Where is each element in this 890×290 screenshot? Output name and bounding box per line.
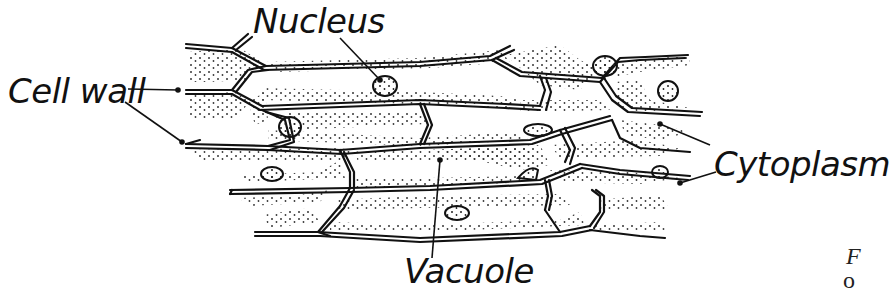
nucleus-9	[445, 206, 469, 220]
label-nucleus: Nucleus	[253, 4, 385, 38]
caption-fragment-line1: F	[846, 244, 861, 268]
nucleus-2	[279, 117, 301, 137]
label-vacuole: Vacuole	[404, 254, 534, 288]
caption-fragment-line2: o	[843, 268, 855, 290]
cytoplasm-pointer-2	[680, 172, 716, 183]
nucleus-3	[593, 56, 617, 76]
nucleus-7	[518, 168, 538, 180]
label-cell-wall: Cell wall	[8, 74, 145, 108]
nucleus-pointer	[340, 38, 380, 80]
nucleus-8	[652, 166, 668, 178]
nucleus-5	[524, 124, 552, 136]
nucleus-4	[658, 81, 678, 101]
nucleus-1	[373, 76, 397, 96]
nucleus-6	[261, 167, 283, 181]
label-cytoplasm: Cytoplasm	[714, 147, 890, 181]
vacuole-pointer	[432, 160, 440, 258]
